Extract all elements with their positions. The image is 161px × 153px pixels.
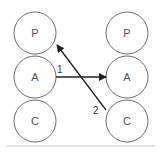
node-label: C [123,115,131,127]
node-left-c: C [14,100,56,142]
node-label: P [31,27,38,39]
node-right-p: P [106,12,148,54]
node-label: A [123,71,131,83]
edge-label-2: 2 [93,105,99,116]
edge-1: 1 [56,64,106,77]
node-right-c: C [106,100,148,142]
node-label: P [123,27,130,39]
edge-2: 2 [57,45,106,116]
right-column: P A C [106,12,148,142]
diagram-canvas: P A C P A C 1 2 [0,0,161,153]
node-label: A [31,71,39,83]
node-right-a: A [106,56,148,98]
node-label: C [31,115,39,127]
node-left-a: A [14,56,56,98]
left-column: P A C [14,12,56,142]
edge-label-1: 1 [57,64,63,75]
node-left-p: P [14,12,56,54]
